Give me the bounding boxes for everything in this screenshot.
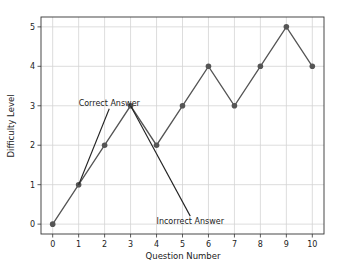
x-tick-label: 7 (232, 240, 237, 249)
y-tick-label: 3 (30, 102, 35, 111)
x-axis-ticks: 012345678910 (50, 234, 317, 249)
data-point-marker (232, 103, 238, 109)
data-point-marker (310, 64, 316, 70)
x-tick-label: 5 (180, 240, 185, 249)
data-point-marker (50, 221, 56, 227)
y-axis-label: Difficulty Level (6, 94, 16, 157)
x-tick-label: 3 (128, 240, 133, 249)
y-tick-label: 0 (30, 220, 35, 229)
annotation-arrow (131, 106, 191, 216)
y-tick-label: 5 (30, 23, 35, 32)
annotations: Correct AnswerIncorrect Answer (79, 99, 225, 226)
annotation-label: Incorrect Answer (157, 217, 225, 226)
data-point-marker (206, 64, 212, 70)
data-point-marker (284, 24, 290, 30)
line-chart: Correct AnswerIncorrect Answer 012345678… (0, 0, 344, 274)
data-point-marker (180, 103, 186, 109)
data-point-marker (154, 142, 160, 148)
x-tick-label: 9 (284, 240, 289, 249)
data-point-marker (258, 64, 264, 70)
x-axis-label: Question Number (146, 251, 221, 261)
x-tick-label: 4 (154, 240, 159, 249)
y-axis-ticks: 012345 (30, 23, 41, 229)
y-tick-label: 1 (30, 181, 35, 190)
y-tick-label: 4 (30, 62, 35, 71)
y-tick-label: 2 (30, 141, 35, 150)
x-tick-label: 2 (102, 240, 107, 249)
x-tick-label: 8 (258, 240, 263, 249)
x-tick-label: 0 (50, 240, 55, 249)
data-point-marker (102, 142, 108, 148)
x-tick-label: 10 (307, 240, 317, 249)
x-tick-label: 1 (76, 240, 81, 249)
x-tick-label: 6 (206, 240, 211, 249)
